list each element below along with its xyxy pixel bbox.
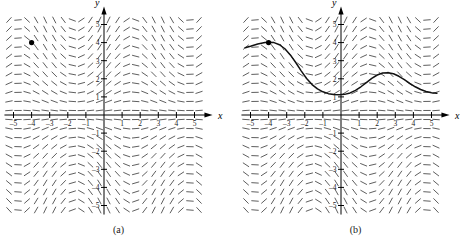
x-tick-label: 5 xyxy=(430,119,434,128)
x-tick-label: –2 xyxy=(63,119,72,128)
y-tick-label: –4 xyxy=(328,183,337,192)
x-tick-label: 5 xyxy=(193,119,197,128)
y-tick-label: 5 xyxy=(96,20,100,29)
panel-b-plot: –5–4–3–2–112345–5–4–3–2–112345xy xyxy=(237,0,474,237)
direction-field-figure: –5–4–3–2–112345–5–4–3–2–112345xy (a) –5–… xyxy=(0,0,474,237)
x-tick-label: –4 xyxy=(264,119,273,128)
x-tick-label: –1 xyxy=(81,119,90,128)
x-axis-label: x xyxy=(217,110,223,121)
panel-a-caption: (a) xyxy=(0,224,237,235)
y-tick-label: –5 xyxy=(91,201,100,210)
panel-a: –5–4–3–2–112345–5–4–3–2–112345xy (a) xyxy=(0,0,237,237)
x-tick-label: 3 xyxy=(156,119,160,128)
x-tick-label: 4 xyxy=(175,119,179,128)
x-tick-label: –3 xyxy=(45,119,54,128)
x-tick-label: –2 xyxy=(300,119,309,128)
x-tick-label: 1 xyxy=(120,119,124,128)
y-tick-label: 2 xyxy=(333,75,337,84)
y-tick-label: 4 xyxy=(96,38,100,47)
panel-a-plot: –5–4–3–2–112345–5–4–3–2–112345xy xyxy=(0,0,237,237)
x-tick-label: –3 xyxy=(282,119,291,128)
y-tick-label: –1 xyxy=(328,129,337,138)
y-tick-label: –5 xyxy=(328,201,337,210)
x-tick-label: –4 xyxy=(27,119,36,128)
y-tick-label: –4 xyxy=(91,183,100,192)
x-tick-label: –5 xyxy=(9,119,18,128)
x-tick-label: 1 xyxy=(357,119,361,128)
initial-condition-point xyxy=(29,40,34,45)
y-tick-label: 5 xyxy=(333,20,337,29)
y-tick-label: –2 xyxy=(328,147,337,156)
y-tick-label: –2 xyxy=(91,147,100,156)
x-axis-label: x xyxy=(454,110,460,121)
axes: –5–4–3–2–112345–5–4–3–2–112345xy xyxy=(241,0,460,215)
y-tick-label: –1 xyxy=(91,129,100,138)
initial-condition-point xyxy=(266,40,271,45)
y-axis-label: y xyxy=(331,0,337,7)
axes: –5–4–3–2–112345–5–4–3–2–112345xy xyxy=(4,0,223,215)
x-tick-label: 4 xyxy=(412,119,416,128)
y-tick-label: 1 xyxy=(96,93,100,102)
x-tick-label: –5 xyxy=(246,119,255,128)
y-tick-label: 3 xyxy=(333,57,337,66)
x-tick-label: 2 xyxy=(138,119,142,128)
x-tick-label: 2 xyxy=(375,119,379,128)
x-tick-label: 3 xyxy=(393,119,397,128)
y-axis-label: y xyxy=(94,0,100,7)
panel-b-caption: (b) xyxy=(237,224,474,235)
y-tick-label: 2 xyxy=(96,75,100,84)
panel-b: –5–4–3–2–112345–5–4–3–2–112345xy (b) xyxy=(237,0,474,237)
y-tick-label: 4 xyxy=(333,38,337,47)
x-tick-label: –1 xyxy=(318,119,327,128)
y-tick-label: –3 xyxy=(91,165,100,174)
y-tick-label: 3 xyxy=(96,57,100,66)
y-tick-label: –3 xyxy=(328,165,337,174)
